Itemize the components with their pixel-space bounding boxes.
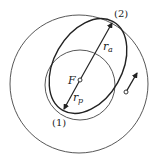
outer-orbit-circle (10, 15, 148, 153)
r-peri-subscript: p (78, 96, 83, 105)
apoapsis-label: (2) (114, 8, 128, 19)
r-apo-subscript: a (108, 45, 113, 54)
periapsis-label: (1) (52, 117, 66, 128)
satellite-point (124, 90, 128, 94)
inner-orbit-circle (45, 50, 115, 120)
focus-label: F (67, 74, 76, 87)
velocity-arrow (126, 73, 137, 92)
orbit-diagram: F (2) (1) r a r p (0, 0, 155, 158)
focus-point (78, 78, 82, 82)
